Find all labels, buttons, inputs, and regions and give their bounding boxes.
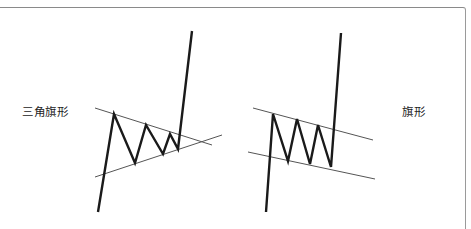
flag-price-path	[266, 33, 341, 212]
triangle-lower-trendline	[95, 135, 222, 177]
flag-label: 旗形	[402, 103, 425, 119]
flag-pattern	[248, 33, 375, 212]
triangle-price-path	[98, 31, 192, 212]
chart-patterns-canvas	[0, 0, 471, 229]
triangle-flag-pattern	[95, 31, 222, 212]
triangle-flag-label: 三角旗形	[22, 103, 68, 119]
